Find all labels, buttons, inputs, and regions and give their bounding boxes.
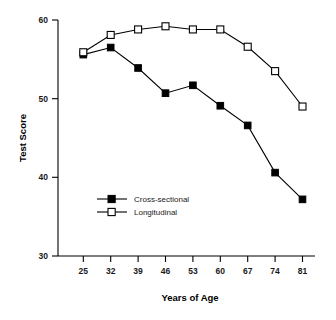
- data-point-marker: [80, 49, 87, 56]
- legend-label-cross-sectional: Cross-sectional: [134, 195, 189, 204]
- y-axis-tick-labels: 60 50 40 30: [39, 15, 49, 261]
- x-tick-label-81: 81: [298, 266, 308, 276]
- data-point-marker: [162, 23, 169, 30]
- x-tick-label-53: 53: [188, 266, 198, 276]
- series-line: [83, 48, 302, 200]
- x-tick-label-60: 60: [216, 266, 226, 276]
- legend-item-longitudinal[interactable]: Longitudinal: [97, 208, 177, 217]
- data-point-marker: [107, 31, 114, 38]
- data-point-marker: [135, 26, 142, 33]
- x-tick-label-32: 32: [106, 266, 116, 276]
- x-axis-tick-labels: 25 32 39 46 53 60 67 74 81: [79, 266, 308, 276]
- data-point-marker: [190, 82, 197, 89]
- y-axis-ticks: [52, 20, 58, 256]
- series-longitudinal: [80, 23, 306, 110]
- x-tick-label-25: 25: [79, 266, 89, 276]
- y-axis-title: Test Score: [17, 114, 28, 162]
- legend: Cross-sectional Longitudinal: [97, 195, 189, 217]
- y-tick-label-40: 40: [39, 172, 49, 182]
- data-point-marker: [135, 65, 142, 72]
- data-point-marker: [189, 26, 196, 33]
- series-layer: [80, 23, 306, 203]
- y-tick-label-50: 50: [39, 94, 49, 104]
- series-line: [83, 26, 302, 106]
- y-tick-label-30: 30: [39, 251, 49, 261]
- data-point-marker: [217, 102, 224, 109]
- data-point-marker: [162, 90, 169, 97]
- legend-item-cross-sectional[interactable]: Cross-sectional: [97, 195, 189, 204]
- line-chart: 60 50 40 30 25 32 39 46 53 60 67 74: [0, 0, 336, 320]
- x-axis-ticks: [83, 256, 302, 262]
- data-point-marker: [244, 122, 251, 129]
- data-point-marker: [217, 26, 224, 33]
- data-point-marker: [107, 44, 114, 51]
- legend-marker-filled-square: [108, 195, 115, 202]
- y-tick-label-60: 60: [39, 15, 49, 25]
- data-point-marker: [299, 196, 306, 203]
- x-tick-label-39: 39: [133, 266, 143, 276]
- data-point-marker: [272, 68, 279, 75]
- x-tick-label-67: 67: [243, 266, 253, 276]
- data-point-marker: [272, 169, 279, 176]
- chart-container: 60 50 40 30 25 32 39 46 53 60 67 74: [0, 0, 336, 320]
- x-axis-title: Years of Age: [161, 292, 218, 303]
- x-tick-label-74: 74: [270, 266, 280, 276]
- legend-marker-open-square: [108, 208, 115, 215]
- data-point-marker: [299, 103, 306, 110]
- x-tick-label-46: 46: [161, 266, 171, 276]
- legend-label-longitudinal: Longitudinal: [134, 208, 177, 217]
- axes: [58, 20, 315, 256]
- data-point-marker: [244, 43, 251, 50]
